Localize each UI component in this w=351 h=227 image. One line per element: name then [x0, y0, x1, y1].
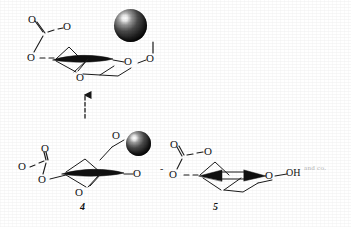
compound-label-4: 4 — [80, 201, 85, 212]
atom-o: O — [76, 72, 84, 83]
atom-o: O — [28, 14, 36, 25]
atom-o: O — [18, 161, 26, 172]
bold-wedge-arrow-left — [199, 170, 222, 181]
atom-o: O — [124, 56, 132, 67]
bold-wedge-arrow-right — [244, 170, 266, 181]
atom-o: O — [204, 146, 212, 157]
atom-o: O — [27, 52, 35, 63]
atom-o: O — [169, 169, 177, 180]
hbond-dashed — [48, 28, 63, 32]
resin-bead — [114, 9, 147, 42]
hbond-dashed — [187, 152, 203, 155]
compound-label-5: 5 — [213, 201, 218, 212]
atom-o: O — [170, 139, 178, 150]
faint-marginal-note: and co. — [304, 164, 326, 172]
atom-o: O — [41, 143, 49, 154]
atom-oh: OH — [286, 168, 300, 178]
bold-wedge-bond — [53, 55, 113, 62]
atom-o: O — [133, 168, 141, 179]
negative-charge: - — [160, 163, 163, 174]
resin-bead — [126, 131, 151, 156]
atom-o: O — [146, 53, 154, 64]
atom-o: O — [265, 170, 273, 181]
atom-o: O — [38, 174, 46, 185]
atom-o: O — [75, 187, 83, 198]
atom-o: O — [112, 130, 120, 141]
reaction-scheme — [0, 0, 351, 227]
hbond-dashed — [30, 161, 44, 167]
bold-wedge-bond — [62, 169, 124, 176]
atom-o: O — [63, 21, 71, 32]
